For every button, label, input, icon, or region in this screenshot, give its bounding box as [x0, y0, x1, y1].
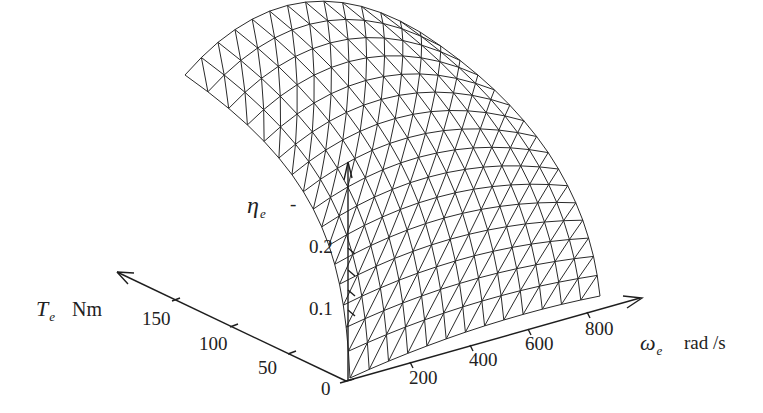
mesh-edge [280, 85, 297, 97]
mesh-edge [275, 38, 296, 57]
mesh-edge [479, 251, 494, 278]
omega-tick-label-800: 800 [585, 318, 614, 340]
mesh-edge [474, 251, 493, 256]
mesh-edge [538, 185, 549, 203]
mesh-edge [437, 173, 447, 198]
mesh-edge [348, 319, 365, 352]
mesh-edge [328, 19, 346, 20]
mesh-edge [437, 267, 441, 290]
mesh-edge [426, 131, 444, 134]
mesh-edge [313, 49, 332, 68]
mesh-edge [355, 159, 366, 178]
mesh-edge [346, 319, 365, 328]
mesh-edge [512, 244, 531, 247]
mesh-edge [297, 75, 314, 85]
mesh-edge [454, 78, 457, 93]
mesh-edge [312, 103, 314, 132]
mesh-edge [355, 131, 360, 158]
mesh-edge [331, 94, 346, 113]
mesh-edge [510, 105, 524, 121]
mesh-edge [500, 185, 511, 207]
mesh-edge [365, 319, 367, 343]
mesh-edge [455, 129, 462, 150]
mesh-edge [511, 185, 519, 204]
mesh-edge [346, 112, 360, 131]
mesh-edge [355, 150, 372, 158]
mesh-edge [413, 112, 431, 115]
mesh-edge [392, 183, 410, 190]
torque-symbol: T [36, 296, 48, 321]
mesh-edge [364, 99, 382, 105]
mesh-edge [526, 224, 532, 244]
mesh-edge [348, 62, 349, 87]
torque-axis-label: Te [36, 296, 54, 322]
mesh-edge [529, 150, 539, 167]
mesh-edge [574, 238, 588, 259]
mesh-edge [364, 105, 378, 124]
mesh-edge [483, 167, 492, 187]
mesh-edge [557, 202, 564, 220]
eta-axis-label: ηe [247, 192, 265, 219]
mesh-edge [444, 218, 450, 239]
mesh-edge [366, 58, 367, 81]
mesh-edge [454, 93, 473, 95]
mesh-edge [357, 206, 365, 226]
mesh-edge [545, 221, 564, 222]
mesh-edge [463, 213, 469, 234]
omega-tick-label-600: 600 [525, 333, 554, 355]
mesh-edge [576, 203, 583, 220]
mesh-edge [208, 92, 229, 109]
mesh-edge [306, 1, 324, 2]
mesh-edge [297, 114, 312, 132]
mesh-edge [460, 60, 478, 75]
omega-axis-label: ωe [640, 330, 661, 356]
mesh-edge [531, 242, 550, 245]
mesh-edge [417, 74, 420, 93]
mesh-edge [574, 259, 578, 279]
mesh-edge [324, 1, 343, 2]
mesh-edge [499, 130, 518, 133]
mesh-edge [540, 153, 549, 167]
mesh-edge [406, 327, 408, 353]
mesh-edge [438, 62, 440, 76]
mesh-edge [555, 262, 559, 283]
mesh-edge [463, 189, 474, 213]
mesh-edge [362, 288, 381, 296]
mesh-edge [468, 111, 487, 113]
mesh-edge [469, 209, 481, 234]
mesh-edge [218, 42, 224, 75]
mesh-edge [378, 99, 382, 124]
mesh-edge [295, 57, 297, 85]
mesh-edge [312, 121, 329, 131]
mesh-edge [431, 111, 449, 112]
mesh-edge [395, 119, 407, 138]
mesh-edge [338, 159, 355, 169]
mesh-edge [362, 266, 376, 296]
mesh-edge [468, 95, 473, 111]
mesh-edge [474, 256, 478, 278]
mesh-edge [512, 247, 517, 268]
torque-subscript: e [49, 309, 55, 324]
mesh-edge [449, 111, 462, 130]
mesh-edge [520, 291, 523, 315]
eta-tick-0.2 [348, 270, 355, 276]
mesh-edge [314, 94, 331, 103]
mesh-edge [335, 264, 340, 284]
mesh-edge [455, 234, 469, 261]
torque-tick-label-50: 50 [258, 357, 277, 379]
mesh-edge [252, 11, 270, 19]
mesh-edge [224, 75, 245, 92]
mesh-edge [343, 275, 358, 305]
mesh-edge [262, 66, 279, 78]
mesh-edge [431, 112, 444, 131]
mesh-edge [279, 144, 296, 158]
mesh-edge [348, 343, 367, 352]
torque-tick-50 [288, 351, 296, 354]
mesh-edge [392, 189, 400, 209]
mesh-edge [455, 193, 463, 214]
mesh-edge [549, 185, 568, 186]
mesh-edge [278, 66, 280, 96]
mesh-edge [450, 213, 462, 239]
mesh-edge [473, 148, 483, 167]
mesh-edge [349, 62, 366, 81]
